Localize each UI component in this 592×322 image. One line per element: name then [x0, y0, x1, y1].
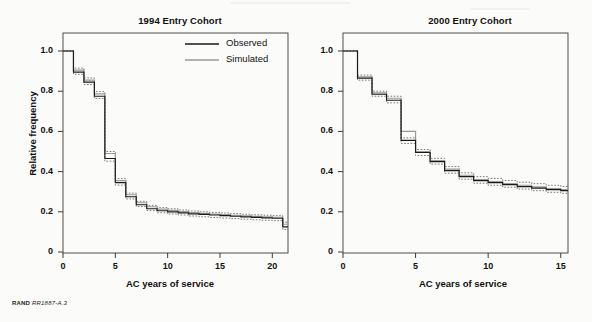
x-tick-label: 0 [331, 261, 355, 271]
panel-title-left: 1994 Entry Cohort [100, 15, 260, 26]
x-axis-label-left: AC years of service [70, 278, 270, 289]
figure-container: 1994 Entry Cohort 2000 Entry Cohort AC y… [0, 0, 592, 322]
y-tick-label: 0.6 [307, 125, 333, 135]
legend-label-observed: Observed [226, 37, 267, 48]
y-tick-label: 1.0 [27, 45, 53, 55]
y-tick-label: 0.2 [307, 206, 333, 216]
y-tick-label: 1.0 [307, 45, 333, 55]
y-tick-label: 0.8 [307, 85, 333, 95]
x-tick-label: 20 [260, 261, 284, 271]
footer-brand: RAND [12, 300, 30, 306]
x-axis-label-right: AC years of service [363, 278, 563, 289]
y-tick-label: 0 [307, 246, 333, 256]
y-tick-label: 0.4 [307, 166, 333, 176]
series-simulated [343, 51, 568, 190]
footer-figure-code: RR1887-A.3 [32, 300, 67, 306]
plot-frame [63, 33, 288, 253]
x-tick-label: 5 [103, 261, 127, 271]
panel-left [58, 33, 288, 258]
series-simulated [63, 51, 288, 224]
y-tick-label: 0.2 [27, 206, 53, 216]
x-tick-label: 5 [404, 261, 428, 271]
legend-label-simulated: Simulated [226, 53, 268, 64]
chart-canvas [0, 0, 592, 322]
x-tick-label: 15 [549, 261, 573, 271]
x-tick-label: 0 [51, 261, 75, 271]
y-tick-label: 0.8 [27, 85, 53, 95]
x-tick-label: 10 [156, 261, 180, 271]
y-tick-label: 0.6 [27, 125, 53, 135]
figure-footer: RAND RR1887-A.3 [12, 300, 67, 306]
panel-right [338, 33, 568, 258]
y-tick-label: 0.4 [27, 166, 53, 176]
series-simulated-upper-bound [63, 51, 288, 222]
panel-title-right: 2000 Entry Cohort [390, 15, 550, 26]
series-observed [63, 51, 288, 227]
y-tick-label: 0 [27, 246, 53, 256]
series-simulated-lower-bound [63, 51, 288, 229]
series-simulated-lower-bound [343, 51, 568, 193]
plot-frame [343, 33, 568, 253]
x-tick-label: 10 [476, 261, 500, 271]
series-simulated-upper-bound [343, 51, 568, 186]
x-tick-label: 15 [208, 261, 232, 271]
